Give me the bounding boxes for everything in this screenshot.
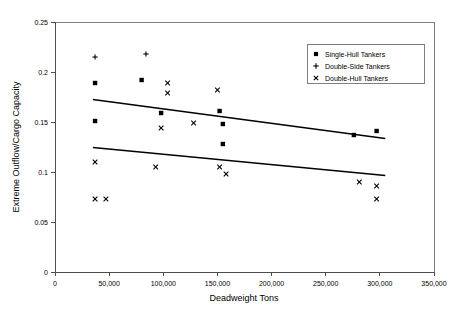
lower-trendline (93, 148, 385, 176)
legend-item-label: Double-Side Tankers (325, 63, 390, 70)
scatter-chart: 00.050.10.150.20.25 050,000100,000150,00… (0, 0, 462, 315)
data-point (165, 91, 170, 96)
legend-item-cross: Double-Hull Tankers (314, 75, 389, 82)
x-axis-tick-labels: 050,000100,000150,000200,000250,000300,0… (53, 280, 447, 287)
chart-canvas: 00.050.10.150.20.25 050,000100,000150,00… (0, 0, 462, 315)
series-single-hull-tankers (93, 78, 379, 146)
y-tick-label: 0.1 (38, 169, 48, 176)
series-double-side-tankers (92, 51, 148, 59)
legend-item-plus: Double-Side Tankers (313, 63, 390, 70)
data-point (217, 109, 221, 113)
legend-item-label: Single-Hull Tankers (325, 51, 386, 59)
x-tick-label: 150,000 (205, 280, 230, 287)
data-point (92, 54, 97, 59)
y-tick-label: 0 (44, 269, 48, 276)
y-tick-label: 0.15 (34, 119, 48, 126)
y-tick-label: 0.25 (34, 19, 48, 26)
x-axis-ticks (55, 272, 434, 276)
data-point (191, 121, 196, 126)
series-double-hull-tankers (93, 81, 379, 202)
data-point (159, 111, 163, 115)
data-point (374, 197, 379, 202)
legend-item-square: Single-Hull Tankers (314, 51, 386, 59)
x-tick-label: 0 (53, 280, 57, 287)
data-point (93, 197, 98, 202)
y-axis-ticks (51, 22, 55, 272)
data-point (159, 126, 164, 131)
data-point (352, 133, 356, 137)
square-icon (314, 52, 318, 56)
x-axis-title: Deadweight Tons (210, 293, 279, 303)
y-axis-tick-labels: 00.050.10.150.20.25 (34, 19, 48, 276)
data-point (221, 122, 225, 126)
data-point (139, 78, 143, 82)
y-axis-title: Extreme Outflow/Cargo Capacity (11, 81, 21, 213)
data-point (374, 129, 378, 133)
data-point (93, 119, 97, 123)
trendlines-group (93, 100, 385, 176)
x-tick-label: 50,000 (98, 280, 120, 287)
data-point (93, 160, 98, 165)
data-point (217, 165, 222, 170)
data-point (165, 81, 170, 86)
data-point (357, 180, 362, 185)
x-tick-label: 100,000 (151, 280, 176, 287)
data-point (143, 51, 148, 56)
data-point (221, 142, 225, 146)
data-point (93, 81, 97, 85)
data-point (153, 165, 158, 170)
legend-item-label: Double-Hull Tankers (325, 75, 388, 82)
data-point (374, 184, 379, 189)
data-point (215, 88, 220, 93)
upper-trendline (93, 100, 385, 139)
data-point (104, 197, 109, 202)
x-tick-label: 300,000 (367, 280, 392, 287)
x-tick-label: 200,000 (259, 280, 284, 287)
data-point (224, 172, 229, 177)
y-tick-label: 0.2 (38, 69, 48, 76)
x-tick-label: 350,000 (421, 280, 446, 287)
chart-legend: Single-Hull TankersDouble-Side TankersDo… (307, 44, 424, 83)
legend-items: Single-Hull TankersDouble-Side TankersDo… (313, 51, 390, 82)
x-tick-label: 250,000 (313, 280, 338, 287)
y-tick-label: 0.05 (34, 219, 48, 226)
